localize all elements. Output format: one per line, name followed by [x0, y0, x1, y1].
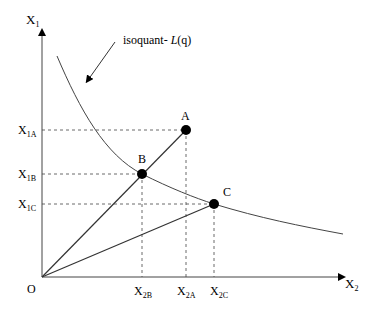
point-c: [209, 199, 219, 209]
point-c-label: C: [223, 185, 231, 199]
x2a-label: X2A: [177, 284, 196, 300]
point-a: [181, 125, 191, 135]
point-b: [137, 169, 147, 179]
x1b-label: X1B: [18, 167, 36, 183]
x2c-label: X2C: [210, 284, 228, 300]
point-a-label: A: [181, 109, 190, 123]
isoquant-curve: [57, 56, 343, 234]
guide-lines: [42, 130, 214, 277]
isoquant-label: isoquant- L(q): [123, 33, 191, 47]
point-b-label: B: [138, 152, 146, 166]
origin-label: O: [27, 282, 36, 296]
annotation-arrow: [88, 42, 115, 80]
ray-oc: [42, 204, 214, 277]
x1c-label: X1C: [18, 197, 36, 213]
x-axis-label: X2: [345, 276, 358, 293]
x2b-label: X2B: [134, 284, 152, 300]
x1a-label: X1A: [18, 123, 37, 139]
isoquant-diagram: X1 X2 O isoquant- L(q) A B C X1A X1B X1C…: [0, 0, 374, 309]
y-axis-label: X1: [26, 12, 39, 29]
